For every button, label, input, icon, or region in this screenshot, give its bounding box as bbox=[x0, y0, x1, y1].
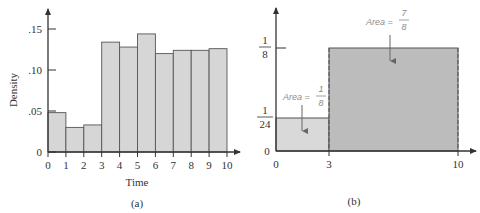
histogram-bar bbox=[173, 50, 191, 152]
xtick-label: 7 bbox=[171, 159, 177, 171]
xtick-label: 2 bbox=[81, 159, 87, 171]
histogram-panel-a: 0.05.10.15 012345678910 Time Density (a) bbox=[7, 9, 240, 210]
xtick-label-10-b: 10 bbox=[453, 158, 465, 170]
ytick-label: .05 bbox=[28, 105, 42, 117]
figure: 0.05.10.15 012345678910 Time Density (a)… bbox=[0, 0, 480, 213]
svg-text:1: 1 bbox=[262, 34, 268, 46]
region-3-10 bbox=[329, 48, 458, 151]
xtick-label-0-b: 0 bbox=[273, 158, 279, 170]
ytick-label-1-8: 1 8 bbox=[259, 34, 271, 60]
xtick-label: 3 bbox=[99, 159, 105, 171]
histogram-bar bbox=[138, 34, 156, 152]
y-axis-label: Density bbox=[7, 72, 19, 107]
ytick-label: .15 bbox=[28, 23, 42, 35]
xtick-label: 9 bbox=[206, 159, 212, 171]
histogram-bar bbox=[102, 42, 120, 152]
xtick-label-3-b: 3 bbox=[326, 158, 332, 170]
svg-text:24: 24 bbox=[260, 118, 272, 130]
ytick-label: .10 bbox=[28, 64, 42, 76]
svg-text:1: 1 bbox=[262, 104, 268, 116]
panel-caption-b: (b) bbox=[348, 195, 361, 208]
ytick-label-0-b: 0 bbox=[264, 145, 270, 157]
svg-text:1: 1 bbox=[318, 84, 323, 94]
xtick-label: 8 bbox=[188, 159, 194, 171]
xtick-label: 5 bbox=[135, 159, 141, 171]
svg-text:Area =: Area = bbox=[365, 17, 393, 27]
svg-text:8: 8 bbox=[318, 98, 323, 108]
density-panel-b: 1 8 1 24 0 0 3 10 Area = 7 8 Area = 1 8 bbox=[257, 8, 476, 208]
svg-text:8: 8 bbox=[262, 48, 268, 60]
svg-text:Area =: Area = bbox=[282, 92, 310, 102]
histogram-bars bbox=[48, 34, 227, 152]
svg-text:7: 7 bbox=[401, 8, 407, 18]
x-axis-label: Time bbox=[126, 176, 149, 188]
histogram-bar bbox=[120, 47, 138, 152]
xtick-label: 0 bbox=[45, 159, 51, 171]
xtick-label: 1 bbox=[63, 159, 69, 171]
panel-caption-a: (a) bbox=[131, 197, 144, 210]
svg-text:8: 8 bbox=[401, 22, 406, 32]
histogram-bar bbox=[191, 50, 209, 152]
histogram-bar bbox=[48, 113, 66, 152]
histogram-bar bbox=[84, 125, 102, 152]
xtick-label: 4 bbox=[117, 159, 123, 171]
xtick-label: 6 bbox=[153, 159, 159, 171]
histogram-bar bbox=[209, 49, 227, 152]
ytick-label-1-24: 1 24 bbox=[257, 104, 273, 130]
histogram-bar bbox=[155, 54, 173, 152]
x-ticks: 012345678910 bbox=[45, 152, 233, 171]
xtick-label: 10 bbox=[222, 159, 234, 171]
ytick-label: 0 bbox=[37, 146, 43, 158]
histogram-bar bbox=[66, 127, 84, 152]
